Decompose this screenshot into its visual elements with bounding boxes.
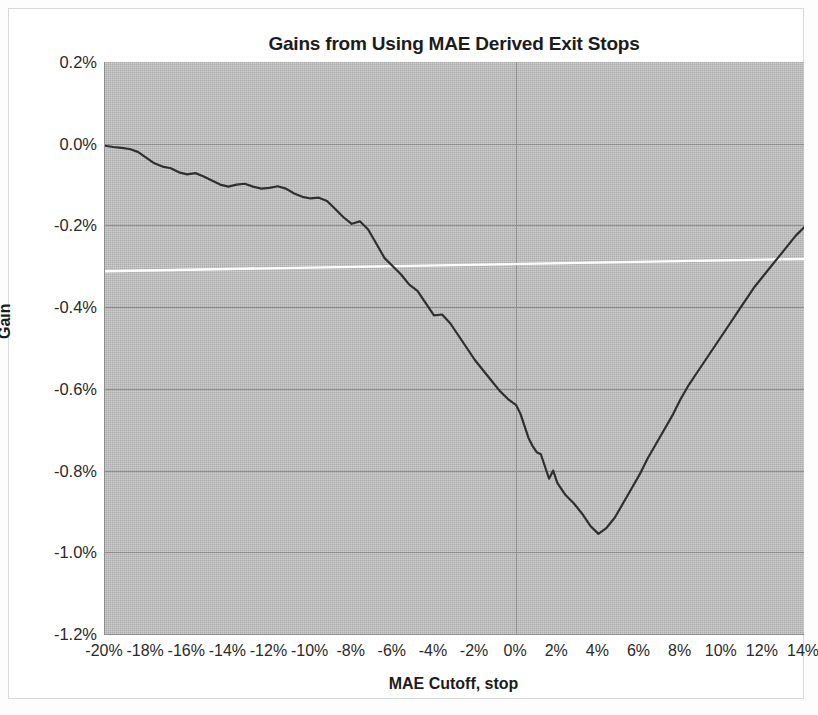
- y-tick-label: -0.4%: [13, 298, 97, 317]
- x-tick-label: -10%: [291, 642, 328, 660]
- plot-area: [104, 62, 804, 635]
- x-tick-label: 6%: [627, 642, 650, 660]
- y-tick-label: -0.8%: [13, 461, 97, 480]
- horizontal-gridlines: [105, 145, 804, 553]
- x-tick-label: -12%: [250, 642, 287, 660]
- x-tick-label: 8%: [668, 642, 691, 660]
- x-tick-label: 2%: [545, 642, 568, 660]
- chart-title: Gains from Using MAE Derived Exit Stops: [104, 33, 804, 55]
- y-axis-tick-labels: 0.2%0.0%-0.2%-0.4%-0.6%-0.8%-1.0%-1.2%: [9, 62, 97, 634]
- chart-page: Gains from Using MAE Derived Exit Stops …: [0, 0, 818, 715]
- y-axis-title: Gain: [0, 303, 14, 339]
- x-tick-label: -20%: [85, 642, 122, 660]
- x-tick-label: 14%: [787, 642, 818, 660]
- x-tick-label: -4%: [419, 642, 447, 660]
- y-tick-label: -0.2%: [13, 216, 97, 235]
- x-tick-label: -18%: [126, 642, 163, 660]
- y-tick-label: -0.6%: [13, 379, 97, 398]
- x-axis-title: MAE Cutoff, stop: [104, 675, 803, 693]
- x-tick-label: -8%: [336, 642, 364, 660]
- x-tick-label: -6%: [378, 642, 406, 660]
- y-tick-label: -1.2%: [13, 625, 97, 644]
- x-tick-label: 0%: [504, 642, 527, 660]
- x-tick-label: 12%: [746, 642, 778, 660]
- chart-frame: Gains from Using MAE Derived Exit Stops …: [8, 8, 804, 699]
- y-tick-label: 0.0%: [13, 134, 97, 153]
- plot-svg: [105, 62, 804, 634]
- x-tick-label: 4%: [586, 642, 609, 660]
- trendline: [105, 259, 804, 271]
- series-line-gain: [105, 146, 804, 534]
- y-tick-label: -1.0%: [13, 543, 97, 562]
- x-tick-label: -16%: [168, 642, 205, 660]
- x-tick-label: -2%: [460, 642, 488, 660]
- y-tick-label: 0.2%: [13, 53, 97, 72]
- x-tick-label: -14%: [209, 642, 246, 660]
- x-tick-label: 10%: [705, 642, 737, 660]
- x-axis-tick-labels: -20%-18%-16%-14%-12%-10%-8%-6%-4%-2%0%2%…: [104, 642, 803, 666]
